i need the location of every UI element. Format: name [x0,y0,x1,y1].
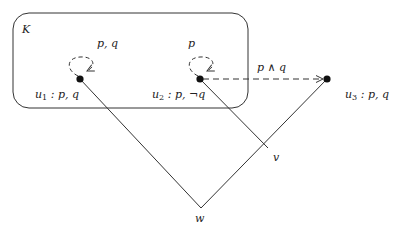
node-w-label: w [195,212,205,225]
loop-u1-label: p, q [97,37,118,50]
node-u1-label: u1 : p, q [35,88,79,102]
node-u3-label: u3 : p, q [345,88,389,102]
loop-u1 [69,57,93,76]
loop-u2-label: p [188,37,195,50]
kripke-diagram: K p ∧ q p, q p u1 : p, q u2 : p, ¬q u3 :… [0,0,407,238]
node-u3 [323,75,330,82]
region-k-label: K [21,23,31,36]
loop-u2 [189,57,213,76]
node-u2 [196,75,203,82]
edge-label-p-and-q: p ∧ q [257,61,286,74]
node-u2-label: u2 : p, ¬q [152,88,205,102]
node-v-label: v [273,151,280,164]
edge-v-u2 [200,79,268,148]
node-u1 [76,75,83,82]
